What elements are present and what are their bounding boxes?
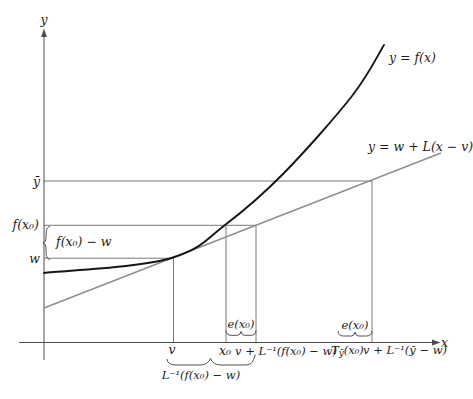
w-tick-label: w: [29, 251, 40, 266]
fx0-minus-w-label: f(x₀) − w: [55, 234, 112, 249]
fx0-tick-label: f(x₀): [12, 217, 40, 232]
tangent-line-label: y = w + L(x − v): [367, 139, 473, 154]
x0-tick-label: x₀: [219, 343, 231, 358]
ybar-tick-label: ȳ: [32, 174, 41, 189]
v-tick-label: v: [168, 342, 175, 357]
y-axis-label: y: [39, 12, 48, 27]
e-brace-left: [226, 331, 256, 336]
linv-underbrace-label: L⁻¹(f(x₀) − w): [161, 368, 240, 382]
curve-label: y = f(x): [388, 50, 436, 65]
v-plus-linv-fx0-tick-label: v + L⁻¹(f(x₀) − w): [235, 344, 337, 358]
v-plus-linv-ybar-tick-label: v + L⁻¹(ȳ − w): [363, 343, 447, 357]
e-x0-right-label: e(x₀): [342, 318, 369, 332]
e-brace-right: [338, 331, 372, 336]
y-axis-arrow-icon: [41, 29, 47, 38]
tangent-line: [44, 153, 441, 308]
e-x0-left-label: e(x₀): [228, 317, 255, 331]
function-graph-figure: y x y = f(x) y = w + L(x − v) ȳ f(x₀) f(…: [0, 0, 473, 399]
T-ybar-x0-tick-label: Tȳ(x₀): [331, 343, 364, 359]
